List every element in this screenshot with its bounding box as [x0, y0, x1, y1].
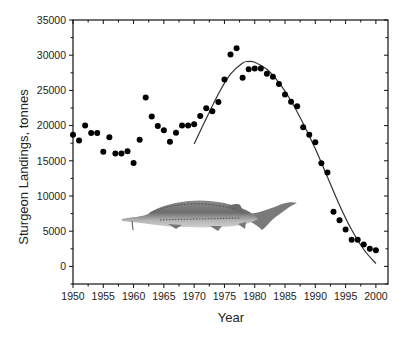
x-tick-label: 1970: [182, 290, 206, 302]
data-point: [82, 123, 88, 129]
data-point: [228, 51, 234, 57]
y-tick-label: 25000: [37, 84, 66, 96]
x-tick-label: 1995: [334, 290, 358, 302]
data-point: [264, 71, 270, 77]
x-tick-label: 1980: [243, 290, 267, 302]
data-point: [100, 149, 106, 155]
x-tick-label: 1965: [152, 290, 176, 302]
data-point: [106, 134, 112, 140]
data-point: [143, 94, 149, 100]
data-point: [252, 66, 258, 72]
data-point: [234, 45, 240, 51]
x-tick-label: 1950: [61, 290, 85, 302]
data-point: [294, 103, 300, 109]
data-point: [185, 123, 191, 129]
data-point: [282, 92, 288, 98]
y-axis-ticks: 05000100001500020000250003000035000: [37, 14, 388, 284]
data-point: [88, 130, 94, 136]
x-tick-label: 1960: [122, 290, 146, 302]
data-point: [191, 121, 197, 127]
x-tick-label: 1990: [304, 290, 328, 302]
y-tick-label: 30000: [37, 49, 66, 61]
data-point: [70, 132, 76, 138]
x-axis-title: Year: [218, 310, 245, 325]
x-axis-ticks: 1950195519601965197019751980198519901995…: [61, 20, 387, 302]
data-point: [179, 123, 185, 129]
data-point: [149, 113, 155, 119]
data-point: [318, 160, 324, 166]
data-point: [300, 124, 306, 130]
data-point: [209, 108, 215, 114]
data-point: [137, 137, 143, 143]
data-point: [330, 209, 336, 215]
x-tick-label: 1975: [213, 290, 237, 302]
data-point: [276, 81, 282, 87]
data-point: [94, 130, 100, 136]
data-point: [306, 132, 312, 138]
data-point: [118, 150, 124, 156]
data-point: [240, 75, 246, 81]
data-point: [203, 105, 209, 111]
data-point: [131, 160, 137, 166]
data-point: [349, 237, 355, 243]
data-point: [221, 76, 227, 82]
data-point: [76, 137, 82, 143]
data-point: [167, 139, 173, 145]
data-point: [324, 169, 330, 175]
data-point: [258, 66, 264, 72]
data-point: [246, 66, 252, 72]
data-point: [125, 148, 131, 154]
y-tick-label: 15000: [37, 155, 66, 167]
data-point: [270, 74, 276, 80]
data-point: [361, 242, 367, 248]
data-point: [197, 113, 203, 119]
data-point: [215, 99, 221, 105]
data-point: [288, 99, 294, 105]
chart: 1950195519601965197019751980198519901995…: [0, 0, 406, 339]
data-point: [337, 217, 343, 223]
data-point: [312, 139, 318, 145]
data-point: [173, 130, 179, 136]
y-tick-label: 20000: [37, 119, 66, 131]
data-point: [355, 237, 361, 243]
y-tick-label: 5000: [43, 225, 67, 237]
x-tick-label: 1985: [273, 290, 297, 302]
x-tick-label: 2000: [364, 290, 388, 302]
sturgeon-fish-illustration: [122, 200, 297, 231]
y-tick-label: 35000: [37, 14, 66, 26]
data-point: [373, 247, 379, 253]
data-point: [112, 150, 118, 156]
data-point: [161, 127, 167, 133]
data-point: [155, 123, 161, 129]
y-tick-label: 10000: [37, 190, 66, 202]
data-point: [343, 226, 349, 232]
data-point: [367, 246, 373, 252]
y-axis-title: Sturgeon Landings, tonnes: [16, 89, 31, 245]
x-tick-label: 1955: [92, 290, 116, 302]
y-tick-label: 0: [60, 260, 66, 272]
